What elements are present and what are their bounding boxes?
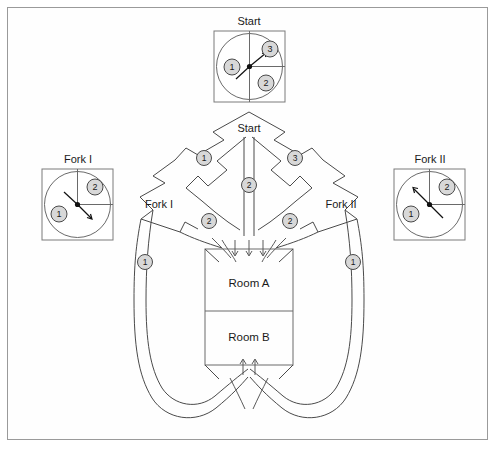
room-a-notch-right: [279, 249, 293, 262]
inset-fork-1-segment-2: 2: [87, 179, 103, 195]
inset-start-segment-label: 3: [267, 44, 272, 54]
room-b-notch-left: [205, 365, 219, 379]
maze-outer-outline: [249, 112, 358, 232]
maze-fork-1-label: Fork I: [145, 198, 173, 210]
path-badge-label: 2: [207, 216, 212, 226]
inset-fork-1-segment-label: 2: [92, 182, 97, 192]
path-badge-label: 1: [351, 257, 356, 267]
room-a-entry-guide-right: [267, 238, 286, 258]
maze-outer-outline-left: [140, 112, 249, 232]
inset-fork-2: Fork II 1 2: [394, 153, 465, 240]
inset-start-segment-label: 2: [263, 78, 268, 88]
inset-start-segment-label: 1: [229, 62, 234, 72]
room-b-notch-right: [279, 365, 293, 379]
path-badge-start-left: 1: [197, 151, 212, 166]
path-badge-center: 2: [242, 178, 257, 193]
inset-start-segment-1: 1: [224, 59, 240, 75]
fork-1-room-entry-wall: [180, 232, 222, 248]
inset-fork-2-segment-1: 1: [403, 206, 419, 222]
room-a-label: Room A: [229, 277, 270, 289]
room-a-notch-left: [205, 249, 219, 262]
path-badge-start-right: 3: [288, 151, 303, 166]
path-badge-label: 1: [143, 257, 148, 267]
start-inner-chevron-left: [186, 137, 246, 230]
inset-fork-1-segment-label: 1: [56, 209, 61, 219]
inset-fork-2-segment-label: 1: [408, 209, 413, 219]
path-badge-fork-1-outer: 1: [138, 255, 153, 270]
room-b-label: Room B: [228, 331, 270, 343]
inset-fork-1-title: Fork I: [64, 153, 92, 165]
rooms-rect: [205, 249, 293, 365]
inset-fork-1: Fork I 1 2: [42, 153, 113, 240]
inset-start-segment-3: 3: [262, 41, 278, 57]
inset-fork-2-title: Fork II: [414, 153, 445, 165]
inset-start-segment-2: 2: [258, 75, 274, 91]
inset-start-title: Start: [237, 15, 260, 27]
room-a-inflow-arrows: [232, 240, 266, 256]
room-b-inflow-arrows: [240, 359, 258, 375]
path-badge-fork-1-inner: 2: [202, 214, 217, 229]
maze-fork-2-label: Fork II: [325, 198, 356, 210]
figure-canvas: Start Fork I Fork II Room A Room B 1 3 2…: [0, 0, 496, 451]
start-inner-chevron-right: [252, 137, 312, 230]
path-badge-label: 1: [202, 153, 207, 163]
fork-2-room-entry-wall: [276, 232, 318, 248]
path-badge-fork-2-outer: 1: [346, 255, 361, 270]
maze-structure: Start Fork I Fork II Room A Room B: [134, 112, 364, 418]
path-badge-fork-2-inner: 2: [283, 214, 298, 229]
path-badge-label: 2: [247, 180, 252, 190]
room-a-entry-guide-left: [212, 238, 231, 258]
inset-fork-1-segment-1: 1: [51, 206, 67, 222]
inset-start: Start 1 2 3: [214, 15, 285, 102]
maze-start-label: Start: [237, 122, 260, 134]
path-badge-label: 2: [288, 216, 293, 226]
path-badge-label: 3: [293, 153, 298, 163]
inset-fork-2-segment-2: 2: [439, 179, 455, 195]
inset-fork-2-segment-label: 2: [444, 182, 449, 192]
diagram-svg: Start Fork I Fork II Room A Room B 1 3 2…: [0, 0, 496, 451]
